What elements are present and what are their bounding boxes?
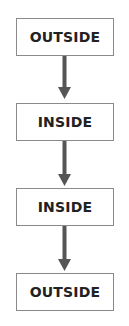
node-label: INSIDE: [38, 114, 93, 130]
arrow-down-icon: [57, 141, 72, 187]
node-label: OUTSIDE: [30, 29, 101, 45]
flow-node-3: INSIDE: [16, 188, 114, 226]
node-label: INSIDE: [38, 199, 93, 215]
arrow-down-icon: [57, 226, 72, 272]
node-label: OUTSIDE: [30, 284, 101, 300]
flow-node-4: OUTSIDE: [16, 273, 114, 311]
arrow-down-icon: [57, 56, 72, 100]
flow-node-1: OUTSIDE: [16, 18, 114, 56]
flow-node-2: INSIDE: [16, 103, 114, 141]
